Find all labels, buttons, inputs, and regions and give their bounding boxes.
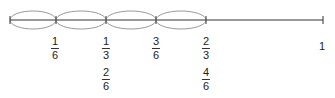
label-four-sixths: 4 6 bbox=[202, 67, 210, 92]
numerator: 3 bbox=[152, 36, 160, 47]
label-two-sixths: 2 6 bbox=[102, 67, 110, 92]
label-two-thirds: 2 3 bbox=[202, 36, 210, 61]
denominator: 3 bbox=[102, 50, 110, 61]
numerator: 1 bbox=[51, 36, 59, 47]
label-one-third: 1 3 bbox=[102, 36, 110, 61]
numerator: 1 bbox=[102, 36, 110, 47]
denominator: 3 bbox=[202, 50, 210, 61]
numerator: 4 bbox=[202, 67, 210, 78]
label-three-sixths: 3 6 bbox=[152, 36, 160, 61]
numerator: 2 bbox=[202, 36, 210, 47]
denominator: 6 bbox=[51, 50, 59, 61]
numerator: 2 bbox=[102, 67, 110, 78]
label-one: 1 bbox=[319, 40, 325, 52]
label-one-sixth: 1 6 bbox=[51, 36, 59, 61]
denominator: 6 bbox=[202, 81, 210, 92]
denominator: 6 bbox=[152, 50, 160, 61]
denominator: 6 bbox=[102, 81, 110, 92]
